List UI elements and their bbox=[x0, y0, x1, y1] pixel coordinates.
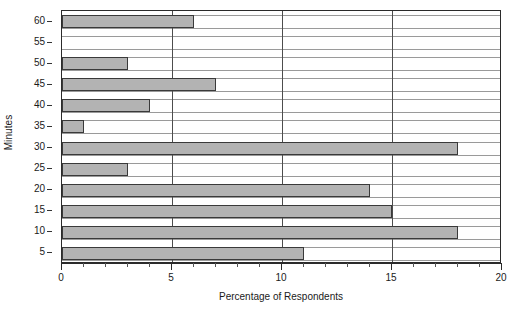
y-tick-mark-25 bbox=[47, 168, 52, 169]
x-tick-minor-11 bbox=[303, 263, 304, 267]
y-tick-mark-60 bbox=[47, 21, 52, 22]
bar-30 bbox=[62, 142, 458, 155]
y-tick-label-60: 60 bbox=[34, 16, 45, 26]
y-tick-label-30: 30 bbox=[34, 142, 45, 152]
bar-25 bbox=[62, 163, 128, 176]
y-axis-title: Minutes bbox=[0, 0, 18, 265]
horizontal-gridline bbox=[62, 239, 500, 240]
bar-5 bbox=[62, 247, 304, 260]
bar-45 bbox=[62, 78, 216, 91]
bar-40 bbox=[62, 99, 150, 112]
bar-10 bbox=[62, 226, 458, 239]
y-tick-label-10: 10 bbox=[34, 226, 45, 236]
x-tick-minor-4 bbox=[149, 263, 150, 267]
y-tick-label-45: 45 bbox=[34, 79, 45, 89]
bar-60 bbox=[62, 15, 194, 28]
horizontal-gridline bbox=[62, 155, 500, 156]
x-tick-minor-17 bbox=[435, 263, 436, 267]
y-tick-label-40: 40 bbox=[34, 100, 45, 110]
x-tick-major-0 bbox=[61, 263, 62, 270]
x-tick-minor-7 bbox=[215, 263, 216, 267]
horizontal-gridline bbox=[62, 133, 500, 134]
x-tick-minor-16 bbox=[413, 263, 414, 267]
x-tick-major-5 bbox=[171, 263, 172, 270]
y-tick-mark-20 bbox=[47, 189, 52, 190]
bar-20 bbox=[62, 184, 370, 197]
x-tick-major-15 bbox=[391, 263, 392, 270]
horizontal-gridline bbox=[62, 218, 500, 219]
x-tick-minor-3 bbox=[127, 263, 128, 267]
y-tick-mark-15 bbox=[47, 210, 52, 211]
x-tick-minor-14 bbox=[369, 263, 370, 267]
bar-35 bbox=[62, 120, 84, 133]
x-tick-minor-13 bbox=[347, 263, 348, 267]
horizontal-gridline bbox=[62, 120, 500, 121]
x-tick-minor-9 bbox=[259, 263, 260, 267]
y-tick-mark-5 bbox=[47, 252, 52, 253]
y-tick-mark-50 bbox=[47, 63, 52, 64]
x-tick-label-10: 10 bbox=[275, 273, 286, 283]
x-tick-label-15: 15 bbox=[385, 273, 396, 283]
horizontal-gridline bbox=[62, 28, 500, 29]
bar-50 bbox=[62, 57, 128, 70]
x-axis: Percentage of Respondents 05101520 bbox=[61, 263, 501, 313]
x-tick-label-5: 5 bbox=[168, 273, 174, 283]
vertical-gridline bbox=[282, 11, 283, 262]
horizontal-gridline bbox=[62, 36, 500, 37]
y-tick-mark-10 bbox=[47, 231, 52, 232]
y-axis-title-text: Minutes bbox=[4, 115, 15, 151]
y-tick-label-50: 50 bbox=[34, 58, 45, 68]
y-tick-label-25: 25 bbox=[34, 163, 45, 173]
x-tick-minor-12 bbox=[325, 263, 326, 267]
y-tick-label-35: 35 bbox=[34, 121, 45, 131]
y-tick-label-55: 55 bbox=[34, 37, 45, 47]
x-tick-label-20: 20 bbox=[495, 273, 506, 283]
horizontal-gridline bbox=[62, 70, 500, 71]
x-tick-major-10 bbox=[281, 263, 282, 270]
y-tick-mark-45 bbox=[47, 84, 52, 85]
y-tick-label-20: 20 bbox=[34, 184, 45, 194]
y-axis-ticks: 51015202530354045505560 bbox=[18, 10, 52, 263]
x-axis-title: Percentage of Respondents bbox=[61, 291, 501, 302]
vertical-gridline bbox=[172, 11, 173, 262]
y-tick-mark-30 bbox=[47, 147, 52, 148]
x-tick-minor-1 bbox=[83, 263, 84, 267]
horizontal-gridline bbox=[62, 197, 500, 198]
plot-area bbox=[61, 10, 501, 263]
y-tick-mark-40 bbox=[47, 105, 52, 106]
x-tick-label-0: 0 bbox=[58, 273, 64, 283]
vertical-gridline bbox=[392, 11, 393, 262]
y-tick-label-5: 5 bbox=[39, 247, 45, 257]
x-tick-minor-2 bbox=[105, 263, 106, 267]
bar-15 bbox=[62, 205, 392, 218]
x-tick-minor-19 bbox=[479, 263, 480, 267]
horizontal-gridline bbox=[62, 176, 500, 177]
x-tick-minor-6 bbox=[193, 263, 194, 267]
y-tick-mark-55 bbox=[47, 42, 52, 43]
horizontal-gridline bbox=[62, 91, 500, 92]
x-tick-major-20 bbox=[501, 263, 502, 270]
x-tick-minor-8 bbox=[237, 263, 238, 267]
bar-chart: Minutes 51015202530354045505560 Percenta… bbox=[0, 0, 510, 313]
y-tick-label-15: 15 bbox=[34, 205, 45, 215]
x-tick-minor-18 bbox=[457, 263, 458, 267]
horizontal-gridline bbox=[62, 49, 500, 50]
horizontal-gridline bbox=[62, 260, 500, 261]
y-tick-mark-35 bbox=[47, 126, 52, 127]
horizontal-gridline bbox=[62, 112, 500, 113]
